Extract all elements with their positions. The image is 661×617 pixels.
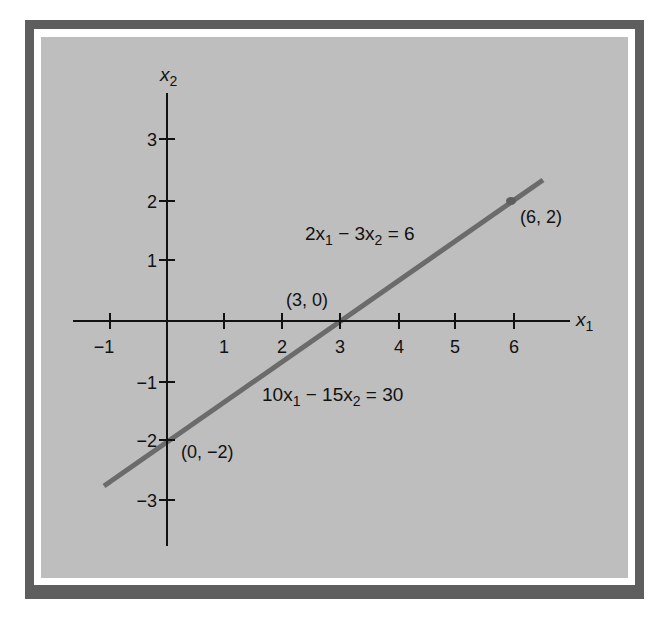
point-marker-6-2 [506, 197, 516, 205]
x-tick-label: 4 [394, 337, 404, 357]
y-tick-label: −2 [136, 431, 157, 451]
equation-label-2: 10x1 − 15x2 = 30 [262, 384, 403, 409]
y-axis-label: x2 [159, 64, 178, 89]
y-tick-label: 1 [147, 251, 157, 271]
y-tick-label: −1 [136, 373, 157, 393]
x-tick-label: 2 [277, 337, 287, 357]
point-label-3-0: (3, 0) [286, 290, 328, 310]
point-label-6-2: (6, 2) [520, 207, 562, 227]
y-tick-label: 2 [147, 192, 157, 212]
x-tick-label: 3 [335, 337, 345, 357]
x-tick-label: 5 [450, 337, 460, 357]
x-tick-label: −1 [94, 337, 115, 357]
equation-label-1: 2x1 − 3x2 = 6 [305, 223, 415, 248]
y-tick-label: −3 [136, 491, 157, 511]
y-tick-label: 3 [147, 130, 157, 150]
chart: −1 1 2 3 4 5 6 3 2 1 −1 −2 −3 x2 x1 (0, … [0, 0, 661, 617]
x-axis-label: x1 [575, 309, 594, 334]
point-label-0-neg2: (0, −2) [181, 442, 234, 462]
x-tick-label: 6 [509, 337, 519, 357]
x-tick-label: 1 [219, 337, 229, 357]
